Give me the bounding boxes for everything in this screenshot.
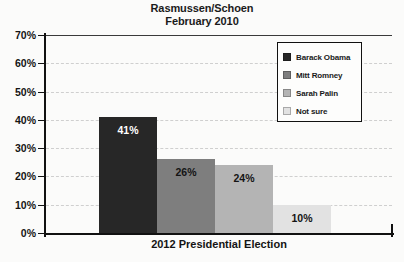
x-axis-line — [44, 233, 394, 235]
y-axis-tick-label: 50% — [0, 87, 36, 97]
y-axis-tick-label: 60% — [0, 58, 36, 68]
chart-title-block: Rasmussen/Schoen February 2010 — [0, 2, 404, 28]
legend-rows: Barack ObamaMitt RomneySarah PalinNot su… — [283, 48, 361, 120]
legend-item: Barack Obama — [283, 48, 361, 66]
gridline — [46, 148, 392, 149]
legend-swatch-icon — [283, 53, 291, 61]
bar-value-label: 24% — [232, 173, 256, 184]
y-axis-tick — [38, 233, 45, 234]
legend-item: Mitt Romney — [283, 66, 361, 84]
chart-title: Rasmussen/Schoen — [0, 2, 404, 15]
y-axis-tick — [38, 120, 45, 121]
y-axis-tick — [38, 176, 45, 177]
y-axis-tick — [38, 92, 45, 93]
y-axis-tick-label: 20% — [0, 171, 36, 181]
chart-legend: Barack ObamaMitt RomneySarah PalinNot su… — [277, 42, 362, 122]
legend-item-label: Barack Obama — [296, 53, 350, 62]
bar-value-label: 41% — [116, 125, 140, 136]
y-axis-tick — [38, 35, 45, 36]
legend-swatch-icon — [283, 107, 291, 115]
legend-item-label: Not sure — [296, 107, 327, 116]
legend-swatch-icon — [283, 71, 291, 79]
y-axis-tick-label: 0% — [0, 228, 36, 238]
y-axis-tick — [38, 205, 45, 206]
x-axis-label: 2012 Presidential Election — [46, 238, 392, 250]
bar-value-label: 10% — [290, 213, 314, 224]
y-axis-tick-label: 40% — [0, 115, 36, 125]
legend-item-label: Mitt Romney — [296, 71, 342, 80]
legend-swatch-icon — [283, 89, 291, 97]
legend-item: Sarah Palin — [283, 84, 361, 102]
y-axis-tick-label: 70% — [0, 30, 36, 40]
chart-subtitle: February 2010 — [0, 15, 404, 28]
legend-item-label: Sarah Palin — [296, 89, 338, 98]
y-axis-tick — [38, 63, 45, 64]
y-axis-tick-label: 10% — [0, 200, 36, 210]
y-axis-tick — [38, 148, 45, 149]
legend-item: Not sure — [283, 102, 361, 120]
y-axis-tick-label: 30% — [0, 143, 36, 153]
bar-chart: Rasmussen/Schoen February 2010 70%60%50%… — [0, 0, 404, 262]
bar-value-label: 26% — [174, 167, 198, 178]
